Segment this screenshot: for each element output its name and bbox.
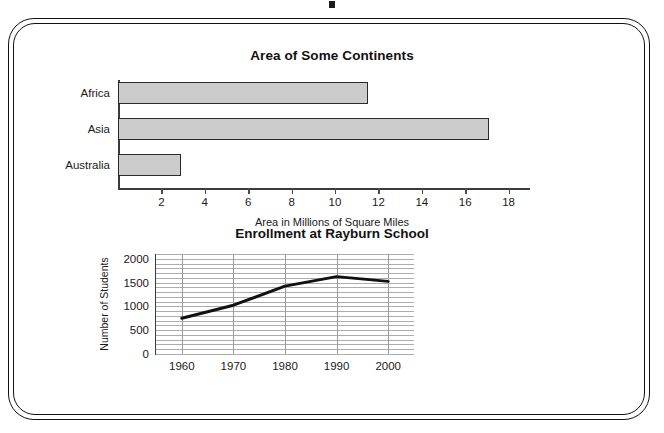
line-chart-x-tick-label: 2000 xyxy=(375,360,401,372)
line-chart-y-tick-label: 0 xyxy=(143,348,149,360)
bar-chart-x-axis-line xyxy=(118,188,530,190)
bar-rect xyxy=(118,118,489,140)
page-top-mark xyxy=(329,1,335,8)
line-chart-y-axis-label-text: Number of Students xyxy=(98,257,110,350)
line-chart-series-svg xyxy=(156,254,414,354)
line-chart-y-tick-label: 1000 xyxy=(123,300,149,312)
line-chart-y-tick-label: 2000 xyxy=(123,253,149,265)
line-chart-x-tick-label: 1990 xyxy=(324,360,350,372)
bar-x-tick xyxy=(335,188,336,194)
bar-x-tick-label: 2 xyxy=(158,196,164,208)
bar-x-tick-label: 4 xyxy=(202,196,208,208)
bar-chart-title: Area of Some Continents xyxy=(0,48,664,63)
bar-row: Asia xyxy=(118,118,526,140)
line-chart-plot-area: 196019701980199020000500100015002000 xyxy=(155,254,414,355)
bar-x-tick-label: 16 xyxy=(459,196,472,208)
bar-category-label: Asia xyxy=(88,123,110,135)
bar-rect xyxy=(118,82,368,104)
line-chart-y-tick-label: 500 xyxy=(130,324,149,336)
bar-x-tick xyxy=(161,188,162,194)
bar-x-tick-label: 14 xyxy=(415,196,428,208)
bar-row: Australia xyxy=(118,154,526,176)
bar-x-tick-label: 12 xyxy=(372,196,385,208)
worksheet-page: Area of Some Continents AfricaAsiaAustra… xyxy=(0,0,664,433)
bar-category-label: Africa xyxy=(81,87,110,99)
line-chart-series-enrollment xyxy=(182,277,388,319)
line-chart: Enrollment at Rayburn School Number of S… xyxy=(0,222,664,397)
line-chart-x-tick-label: 1980 xyxy=(272,360,298,372)
bar-rect xyxy=(118,154,181,176)
bar-x-tick-label: 18 xyxy=(502,196,515,208)
bar-x-tick-label: 8 xyxy=(288,196,294,208)
bar-chart: Area of Some Continents AfricaAsiaAustra… xyxy=(0,40,664,225)
bar-category-label: Australia xyxy=(65,159,110,171)
bar-x-tick xyxy=(465,188,466,194)
line-chart-x-tick-label: 1970 xyxy=(221,360,247,372)
line-chart-title: Enrollment at Rayburn School xyxy=(0,226,664,241)
line-chart-y-axis-label: Number of Students xyxy=(97,254,111,354)
bar-row: Africa xyxy=(118,82,526,104)
bar-x-tick-label: 10 xyxy=(329,196,342,208)
bar-x-tick xyxy=(378,188,379,194)
bar-x-tick xyxy=(292,188,293,194)
line-chart-y-tick-label: 1500 xyxy=(123,277,149,289)
line-chart-x-tick-label: 1960 xyxy=(169,360,195,372)
bar-x-tick xyxy=(248,188,249,194)
line-chart-gridline-horizontal xyxy=(156,354,414,355)
bar-x-tick-label: 6 xyxy=(245,196,251,208)
bar-x-tick xyxy=(205,188,206,194)
bar-x-tick xyxy=(422,188,423,194)
bar-chart-plot-area: AfricaAsiaAustralia xyxy=(118,80,526,188)
bar-x-tick xyxy=(509,188,510,194)
